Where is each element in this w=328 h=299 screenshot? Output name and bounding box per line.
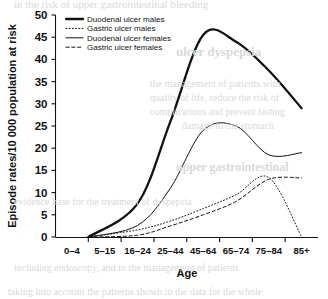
x-tick-label-group: 0–45–1516–2425–4445–6465–7475–8485+ (64, 245, 310, 256)
series-group (88, 29, 301, 237)
legend-label-0: Duodenal ulcer males (87, 15, 164, 24)
y-tick-label: 40 (35, 53, 48, 65)
y-tick-label: 50 (35, 9, 48, 21)
y-tick-label: 10 (35, 187, 48, 199)
chart-legend: Duodenal ulcer malesGastric ulcer malesD… (66, 15, 171, 52)
x-tick-label: 16–24 (124, 245, 151, 256)
legend-label-2: Duodenal ulcer females (87, 34, 171, 43)
y-axis: 05101520253035404550 (35, 9, 56, 243)
x-tick-label: 5–15 (94, 245, 116, 256)
y-tick-label: 5 (41, 209, 48, 221)
x-tick-label: 45–64 (190, 245, 217, 256)
series-line-3 (88, 177, 301, 237)
legend-label-3: Gastric ulcer females (87, 43, 162, 52)
x-axis-title: Age (177, 267, 198, 279)
y-tick-label: 15 (35, 164, 48, 176)
y-tick-label: 35 (35, 76, 48, 88)
x-tick-label: 25–44 (157, 245, 184, 256)
series-line-0 (88, 29, 301, 237)
x-tick-label: 0–4 (64, 245, 81, 256)
y-tick-label: 45 (35, 31, 48, 43)
x-tick-label: 85+ (294, 245, 311, 256)
y-tick-label: 25 (35, 120, 48, 132)
y-tick-label: 0 (41, 231, 47, 243)
x-tick-label: 65–74 (223, 245, 250, 256)
chart-figure: in the risk of upper gastrointestinal bl… (0, 0, 328, 299)
y-tick-group (52, 15, 56, 237)
y-axis-title: Episode rates/10 000 population at risk (6, 23, 18, 227)
x-tick-label: 75–84 (256, 245, 283, 256)
y-tick-label-group: 05101520253035404550 (35, 9, 48, 243)
y-tick-label: 20 (35, 142, 48, 154)
legend-label-1: Gastric ulcer males (87, 24, 155, 33)
line-chart-plot: 05101520253035404550 0–45–1516–2425–4445… (0, 0, 328, 299)
x-axis: 0–45–1516–2425–4445–6465–7475–8485+ (56, 237, 319, 256)
series-line-1 (88, 176, 301, 237)
y-tick-label: 30 (35, 98, 48, 110)
